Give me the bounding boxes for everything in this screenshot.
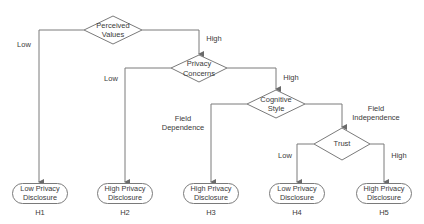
hypothesis-label-h2: H2 — [110, 208, 140, 217]
edge-label-field-independence: Field Independence — [348, 104, 404, 122]
edge-label-pc-low: Low — [101, 74, 121, 83]
edge-label-line: Field — [158, 114, 208, 123]
outcome-h1: Low Privacy Disclosure — [12, 183, 68, 204]
edge-label-line: Dependence — [158, 123, 208, 132]
node-label: Values — [102, 30, 124, 40]
edge-label-pc-high: High — [281, 73, 301, 82]
outcome-label: Disclosure — [280, 194, 314, 203]
outcome-h2: High Privacy Disclosure — [97, 183, 153, 204]
edge-label-line: Independence — [348, 113, 404, 122]
node-label: Cognitive — [260, 95, 291, 105]
cognitive-style-node: Cognitive Style — [247, 90, 305, 118]
edge-label-pv-high: High — [204, 34, 224, 43]
outcome-label: Disclosure — [194, 194, 228, 203]
perceived-values-node: Perceived Values — [84, 16, 142, 44]
node-label: Perceived — [96, 21, 129, 31]
hypothesis-label-h5: H5 — [369, 208, 399, 217]
privacy-concerns-node: Privacy Concerns — [171, 55, 227, 82]
node-label: Privacy — [187, 59, 212, 69]
node-label: Style — [268, 104, 285, 114]
edge-label-pv-low: Low — [14, 40, 34, 49]
outcome-h4: Low Privacy Disclosure — [269, 183, 325, 204]
outcome-label: Disclosure — [367, 194, 401, 203]
edge-label-trust-high: High — [389, 151, 409, 160]
trust-node: Trust — [314, 128, 370, 160]
node-label: Trust — [334, 139, 351, 149]
outcome-label: Disclosure — [23, 194, 57, 203]
edge-label-trust-low: Low — [275, 151, 295, 160]
edge-label-field-dependence: Field Dependence — [158, 114, 208, 132]
node-label: Concerns — [183, 69, 215, 79]
hypothesis-label-h1: H1 — [25, 208, 55, 217]
outcome-h3: High Privacy Disclosure — [183, 183, 239, 204]
outcome-label: Disclosure — [108, 194, 142, 203]
edge-label-line: Field — [348, 104, 404, 113]
hypothesis-label-h4: H4 — [282, 208, 312, 217]
outcome-h5: High Privacy Disclosure — [356, 183, 412, 204]
hypothesis-label-h3: H3 — [196, 208, 226, 217]
